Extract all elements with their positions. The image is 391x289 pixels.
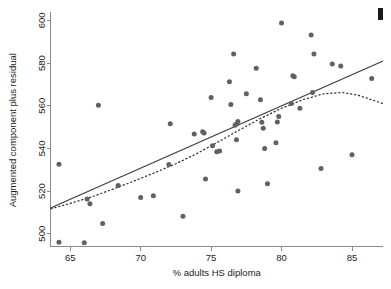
data-point xyxy=(338,64,343,69)
data-point xyxy=(85,196,90,201)
data-point xyxy=(297,106,302,111)
data-point xyxy=(330,61,335,66)
data-point xyxy=(279,20,284,25)
data-point xyxy=(235,119,240,124)
data-point xyxy=(310,90,315,95)
data-point xyxy=(209,95,214,100)
data-point xyxy=(259,120,264,125)
corner-artifact-mark xyxy=(378,8,383,20)
data-point xyxy=(192,131,197,136)
data-point xyxy=(311,52,316,57)
data-point xyxy=(309,32,314,37)
data-point xyxy=(82,240,87,245)
y-tick-label-500: 500 xyxy=(36,226,47,242)
data-point xyxy=(273,140,278,145)
data-point xyxy=(235,189,240,194)
y-tick-label-580: 580 xyxy=(36,55,47,71)
axis-ticks xyxy=(47,20,353,250)
y-axis-title: Augmented component plus residual xyxy=(7,53,18,207)
data-point xyxy=(275,119,280,124)
x-axis-title: % adults HS diploma xyxy=(173,267,262,278)
data-point xyxy=(210,143,215,148)
data-point xyxy=(228,102,233,107)
data-point xyxy=(254,66,259,71)
chart-container: 6570758085500520540560580600 % adults HS… xyxy=(0,0,391,289)
data-point xyxy=(289,101,294,106)
x-tick-label-80: 80 xyxy=(276,252,287,263)
y-tick-label-520: 520 xyxy=(36,183,47,199)
data-point xyxy=(202,131,207,136)
data-point xyxy=(100,221,105,226)
axis-tick-labels: 6570758085500520540560580600 xyxy=(36,12,357,262)
data-point xyxy=(369,76,374,81)
data-point xyxy=(151,193,156,198)
data-point xyxy=(265,181,270,186)
axes xyxy=(51,12,384,247)
data-point xyxy=(87,201,92,206)
x-tick-label-65: 65 xyxy=(65,252,76,263)
data-point xyxy=(244,91,249,96)
data-point xyxy=(96,103,101,108)
data-point xyxy=(168,121,173,126)
data-point xyxy=(217,148,222,153)
data-point xyxy=(276,114,281,119)
data-point xyxy=(231,52,236,57)
data-point xyxy=(234,137,239,142)
x-tick-label-85: 85 xyxy=(347,252,358,263)
data-point xyxy=(56,162,61,167)
data-point xyxy=(319,166,324,171)
data-point xyxy=(180,214,185,219)
data-point xyxy=(227,79,232,84)
data-point xyxy=(56,240,61,245)
scatter-plot: 6570758085500520540560580600 % adults HS… xyxy=(0,0,391,289)
data-point xyxy=(116,183,121,188)
data-point xyxy=(261,126,266,131)
fitted-lines xyxy=(51,61,384,209)
data-point xyxy=(203,177,208,182)
data-point xyxy=(262,146,267,151)
y-tick-label-540: 540 xyxy=(36,140,47,156)
data-point xyxy=(166,162,171,167)
y-tick-label-560: 560 xyxy=(36,98,47,114)
data-point xyxy=(350,152,355,157)
data-point xyxy=(258,97,263,102)
data-point xyxy=(292,74,297,79)
linear-fit-line xyxy=(51,61,384,208)
x-tick-label-70: 70 xyxy=(135,252,146,263)
x-tick-label-75: 75 xyxy=(206,252,217,263)
data-points xyxy=(56,20,374,245)
data-point xyxy=(138,195,143,200)
y-tick-label-600: 600 xyxy=(36,12,47,28)
